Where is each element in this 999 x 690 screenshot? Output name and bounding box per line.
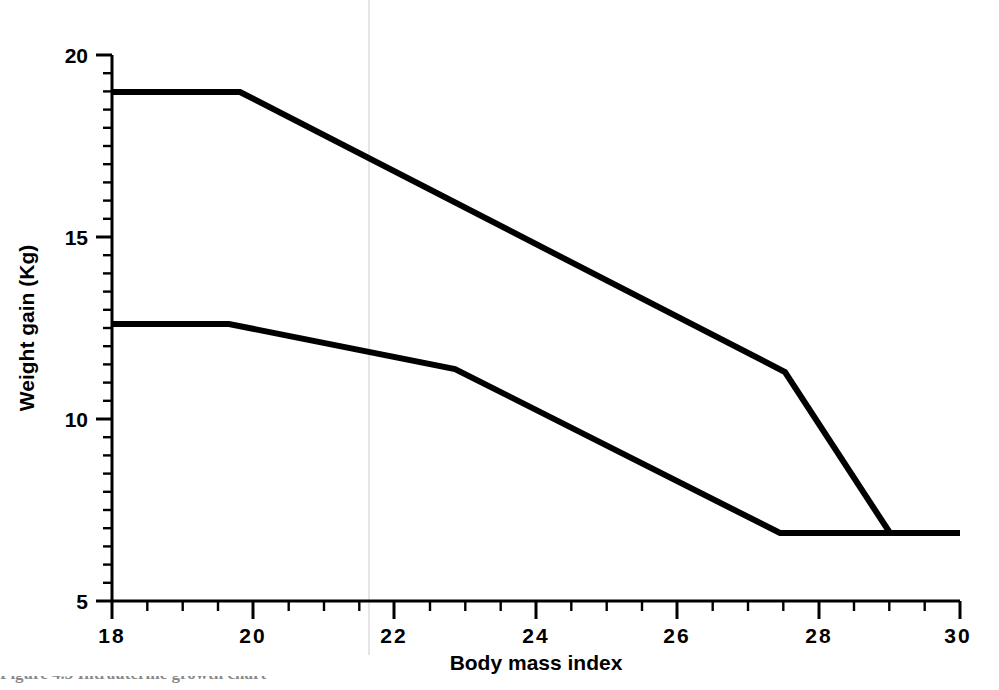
line-chart: 20 15 10 5 Weight gain (Kg) <box>0 0 999 690</box>
y-tick-label-15: 15 <box>65 226 89 249</box>
x-tick-label-22: 22 <box>380 624 407 647</box>
y-tick-label-10: 10 <box>65 408 88 431</box>
chart-background <box>0 0 999 690</box>
x-tick-label-18: 18 <box>98 624 125 647</box>
y-tick-label-20: 20 <box>65 44 88 67</box>
weight-gain-vs-bmi-figure: 20 15 10 5 Weight gain (Kg) <box>0 0 999 690</box>
x-axis-title: Body mass index <box>450 651 623 674</box>
y-axis-title: Weight gain (Kg) <box>15 245 38 411</box>
x-tick-label-30: 30 <box>944 624 971 647</box>
x-tick-label-20: 20 <box>239 624 266 647</box>
x-tick-label-26: 26 <box>663 624 690 647</box>
y-tick-label-5: 5 <box>76 590 88 613</box>
x-tick-label-24: 24 <box>522 624 549 647</box>
x-tick-label-28: 28 <box>805 624 832 647</box>
